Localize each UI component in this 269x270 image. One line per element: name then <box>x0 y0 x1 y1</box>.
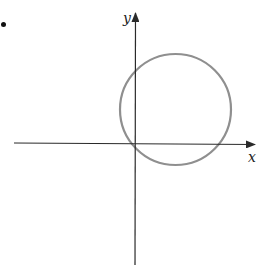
y-axis <box>135 13 136 265</box>
diagram-svg <box>0 0 269 270</box>
coordinate-diagram: y x <box>0 0 269 270</box>
x-axis-label: x <box>248 150 256 164</box>
circle-curve <box>120 54 231 165</box>
y-axis-label: y <box>123 11 131 25</box>
